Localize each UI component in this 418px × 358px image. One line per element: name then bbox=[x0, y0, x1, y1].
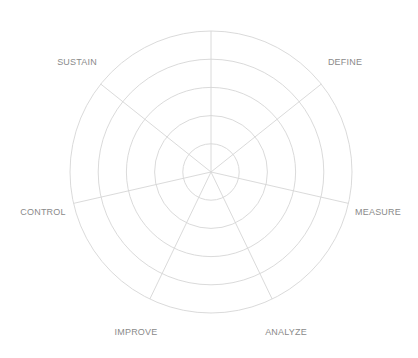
radar-spokes bbox=[74, 31, 349, 299]
radar-spoke bbox=[150, 172, 211, 299]
axis-label-control: CONTROL bbox=[20, 208, 65, 217]
axis-label-analyze: ANALYZE bbox=[265, 328, 307, 337]
radar-spoke bbox=[211, 172, 348, 203]
axis-label-define: DEFINE bbox=[328, 58, 362, 67]
axis-label-sustain: SUSTAIN bbox=[57, 58, 97, 67]
radar-spoke bbox=[74, 172, 211, 203]
axis-label-measure: MEASURE bbox=[355, 208, 401, 217]
radar-spoke bbox=[211, 172, 272, 299]
radar-grid bbox=[0, 0, 418, 358]
axis-label-improve: IMPROVE bbox=[115, 328, 158, 337]
